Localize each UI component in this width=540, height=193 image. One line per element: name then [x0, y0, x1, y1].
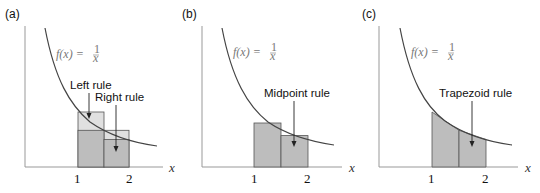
trapezoid-1 [432, 112, 459, 167]
panel-a: (a) f(x) = 1 x Left rule Right rule 1 2 … [5, 7, 175, 186]
panel-label: (c) [362, 7, 376, 21]
function-denominator: x [447, 49, 454, 63]
tick-1: 1 [251, 171, 258, 186]
midpoint-rect-2 [281, 136, 308, 167]
function-label: f(x) = [56, 47, 84, 61]
panel-label: (a) [5, 7, 20, 21]
x-axis-label: x [348, 160, 355, 175]
panel-label: (b) [182, 7, 197, 21]
tick-2: 2 [126, 171, 133, 186]
right-rule-rect-2 [104, 140, 129, 168]
rule-label-midpoint: Midpoint rule [264, 87, 330, 99]
midpoint-rect-1 [254, 123, 281, 167]
x-axis-label: x [524, 160, 531, 175]
tick-2: 2 [482, 171, 489, 186]
rule-label-left: Left rule [70, 79, 112, 91]
x-axis-label: x [168, 160, 175, 175]
function-denominator: x [269, 49, 276, 63]
function-label: f(x) = [411, 45, 439, 59]
function-label: f(x) = [233, 45, 261, 59]
tick-1: 1 [74, 171, 81, 186]
rule-label-right: Right rule [95, 91, 144, 103]
tick-1: 1 [428, 171, 435, 186]
tick-2: 2 [304, 171, 311, 186]
panel-b: (b) f(x) = 1 x Midpoint rule 1 2 x [182, 7, 355, 186]
riemann-sum-figure: (a) f(x) = 1 x Left rule Right rule 1 2 … [0, 0, 540, 193]
rule-label-trapezoid: Trapezoid rule [439, 87, 512, 99]
panel-c: (c) f(x) = 1 x Trapezoid rule 1 2 x [362, 7, 531, 186]
function-denominator: x [92, 51, 99, 65]
right-rule-rect-1 [78, 130, 104, 167]
